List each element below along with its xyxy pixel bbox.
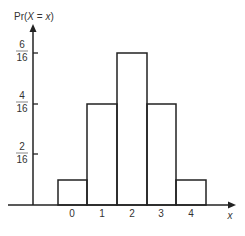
x-tick-label-3: 3: [158, 208, 164, 219]
svg-text:6: 6: [19, 39, 25, 50]
svg-text:16: 16: [16, 154, 28, 165]
x-tick-label-0: 0: [69, 208, 75, 219]
bar-0: [58, 180, 87, 205]
bar-2: [117, 53, 147, 205]
bar-3: [147, 104, 176, 205]
x-axis-arrow-icon: [228, 202, 236, 209]
x-axis-title: x: [227, 210, 234, 221]
svg-text:16: 16: [16, 52, 28, 63]
y-axis-title: Pr(X = x): [14, 11, 54, 22]
x-tick-label-1: 1: [99, 208, 105, 219]
bar-1: [87, 104, 117, 205]
histogram-chart: 6 16 4 16 2 16 Pr(X = x) 0 1 2 3 4 x: [0, 0, 245, 236]
svg-text:2: 2: [19, 141, 25, 152]
x-tick-label-2: 2: [129, 208, 135, 219]
bar-4: [176, 180, 206, 205]
y-tick-label-2-16: 2 16: [16, 141, 28, 165]
y-tick-label-6-16: 6 16: [16, 39, 28, 63]
svg-text:4: 4: [19, 90, 25, 101]
y-tick-label-4-16: 4 16: [16, 90, 28, 114]
x-tick-label-4: 4: [188, 208, 194, 219]
svg-text:16: 16: [16, 103, 28, 114]
y-axis-arrow-icon: [30, 24, 37, 32]
